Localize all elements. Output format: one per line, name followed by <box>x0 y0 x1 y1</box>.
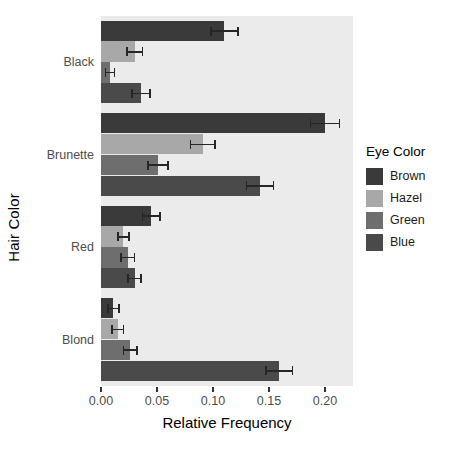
error-bar-line <box>128 278 141 280</box>
error-bar-cap-lower <box>117 232 119 241</box>
error-bar-cap-upper <box>118 304 120 313</box>
error-bar-line <box>123 349 136 351</box>
legend-swatch-brown <box>366 168 383 185</box>
legend: Eye Color BrownHazelGreenBlue <box>366 144 458 253</box>
error-bar-cap-upper <box>292 366 294 375</box>
error-bar-cap-upper <box>339 119 341 128</box>
x-tick-mark <box>156 387 157 392</box>
error-bar-cap-lower <box>111 325 113 334</box>
error-bar-cap-upper <box>142 47 144 56</box>
error-bar-line <box>142 215 160 217</box>
error-bar-cap-lower <box>142 212 144 221</box>
error-bar-cap-upper <box>123 325 125 334</box>
error-bar-cap-lower <box>123 346 125 355</box>
legend-swatch-blue <box>366 234 383 251</box>
error-bar-cap-lower <box>127 274 129 283</box>
x-tick-label-0.15: 0.15 <box>257 394 281 408</box>
error-bar-line <box>266 370 293 372</box>
error-bar-line <box>211 30 238 32</box>
error-bar-cap-upper <box>136 346 138 355</box>
error-bar-cap-upper <box>237 27 239 36</box>
legend-label-hazel: Hazel <box>390 191 422 205</box>
error-bar-cap-upper <box>273 181 275 190</box>
error-bar-line <box>310 123 339 125</box>
error-bar-cap-lower <box>105 68 107 77</box>
x-tick-mark <box>100 387 101 392</box>
error-bar-cap-lower <box>107 304 109 313</box>
bar-chart: Hair Color BlackBrunetteRedBlond 0.000.0… <box>0 0 462 455</box>
error-bar-cap-lower <box>310 119 312 128</box>
legend-item-hazel: Hazel <box>366 187 458 209</box>
x-tick-mark <box>324 387 325 392</box>
error-bar-cap-upper <box>214 140 216 149</box>
error-bar-line <box>247 185 274 187</box>
error-bar-cap-upper <box>134 253 136 262</box>
error-bar-cap-upper <box>114 68 116 77</box>
y-tick-label-blond: Blond <box>22 333 94 347</box>
error-bar-cap-upper <box>159 212 161 221</box>
legend-swatch-hazel <box>366 190 383 207</box>
y-tick-label-brunette: Brunette <box>22 148 94 162</box>
error-bar-cap-upper <box>128 232 130 241</box>
error-bar-cap-lower <box>265 366 267 375</box>
error-bar-line <box>132 93 150 95</box>
x-axis-title: Relative Frequency <box>101 414 353 431</box>
bar-brunette-blue <box>101 176 260 196</box>
error-bar-cap-lower <box>190 140 192 149</box>
legend-swatch-green <box>366 212 383 229</box>
legend-label-blue: Blue <box>390 235 415 249</box>
x-tick-label-0.20: 0.20 <box>313 394 337 408</box>
error-bar-cap-lower <box>126 47 128 56</box>
error-bar-cap-upper <box>140 274 142 283</box>
y-tick-label-red: Red <box>22 240 94 254</box>
plot-panel <box>101 16 353 386</box>
error-bar-line <box>191 144 216 146</box>
x-tick-label-0.10: 0.10 <box>201 394 225 408</box>
error-bar-line <box>121 257 134 259</box>
error-bar-cap-lower <box>131 89 133 98</box>
legend-label-brown: Brown <box>390 169 425 183</box>
x-tick-label-0.05: 0.05 <box>145 394 169 408</box>
bar-blond-blue <box>101 361 279 381</box>
error-bar-cap-upper <box>149 89 151 98</box>
legend-item-brown: Brown <box>366 165 458 187</box>
error-bar-cap-upper <box>167 161 169 170</box>
error-bar-cap-lower <box>210 27 212 36</box>
y-axis-tick-labels: BlackBrunetteRedBlond <box>22 0 94 455</box>
x-tick-mark <box>212 387 213 392</box>
legend-entries: BrownHazelGreenBlue <box>366 165 458 253</box>
error-bar-cap-lower <box>246 181 248 190</box>
error-bar-line <box>127 51 143 53</box>
bar-black-brown <box>101 21 224 41</box>
error-bar-cap-lower <box>147 161 149 170</box>
error-bar-cap-lower <box>120 253 122 262</box>
legend-item-green: Green <box>366 209 458 231</box>
x-tick-label-0.00: 0.00 <box>89 394 113 408</box>
error-bar-line <box>148 164 168 166</box>
bar-brunette-brown <box>101 113 325 133</box>
y-tick-label-black: Black <box>22 55 94 69</box>
legend-title: Eye Color <box>366 144 458 159</box>
legend-label-green: Green <box>390 213 425 227</box>
legend-item-blue: Blue <box>366 231 458 253</box>
x-tick-mark <box>268 387 269 392</box>
bar-brunette-hazel <box>101 134 203 154</box>
